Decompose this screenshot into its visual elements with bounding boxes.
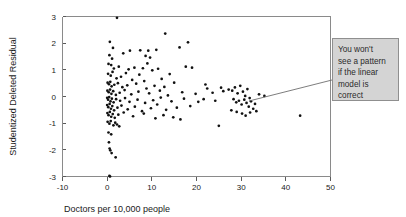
scatter-point <box>110 92 113 95</box>
scatter-point <box>111 57 114 60</box>
scatter-point <box>152 99 155 102</box>
scatter-point <box>117 65 120 68</box>
scatter-point <box>115 94 118 97</box>
scatter-point <box>109 40 112 43</box>
scatter-point <box>108 96 111 99</box>
scatter-point <box>146 62 149 65</box>
scatter-point <box>112 124 115 127</box>
scatter-point <box>141 110 144 113</box>
scatter-point <box>111 71 114 74</box>
scatter-point <box>191 66 194 69</box>
y-tick-label: 2 <box>52 39 57 48</box>
scatter-point <box>138 73 141 76</box>
scatter-point <box>120 75 123 78</box>
scatter-point <box>122 111 125 114</box>
scatter-point <box>117 82 120 85</box>
scatter-point <box>246 88 249 91</box>
scatter-point <box>160 78 163 81</box>
scatter-point <box>232 98 235 101</box>
scatter-point <box>147 49 150 52</box>
scatter-point <box>110 107 113 110</box>
scatter-point <box>168 73 171 76</box>
x-tick-label: 50 <box>326 183 335 192</box>
scatter-point <box>107 131 110 134</box>
scatter-point <box>127 68 130 71</box>
scatter-point <box>242 90 245 93</box>
scatter-point <box>153 84 156 87</box>
scatter-point <box>110 133 113 136</box>
scatter-point <box>126 108 129 111</box>
x-tick-label: 0 <box>105 183 110 192</box>
scatter-point <box>126 84 129 87</box>
scatter-point <box>124 97 127 100</box>
scatterplot-figure: 3 2 1 0 -1 -2 -3 Studentized Deleted Res… <box>0 0 406 217</box>
scatter-point <box>108 122 111 125</box>
scatter-point <box>189 105 192 108</box>
scatter-point <box>245 102 248 105</box>
scatter-point <box>112 101 115 104</box>
scatter-point <box>170 100 173 103</box>
scatter-point <box>112 47 115 50</box>
scatter-point <box>111 113 114 116</box>
scatter-point <box>107 91 110 94</box>
scatter-point <box>136 98 139 101</box>
scatter-point <box>144 102 147 105</box>
x-axis-title: Doctors per 10,000 people <box>64 204 170 214</box>
y-axis-title: Studentized Deleted Residual <box>8 37 18 156</box>
scatter-point <box>172 116 175 119</box>
scatter-point <box>115 77 118 80</box>
scatter-point <box>107 106 110 109</box>
scatter-point <box>111 97 114 100</box>
scatter-point <box>110 152 113 155</box>
scatter-point <box>108 141 111 144</box>
scatter-point <box>109 74 112 77</box>
scatter-point <box>130 93 133 96</box>
scatter-point <box>149 56 152 59</box>
scatter-point <box>173 81 176 84</box>
x-tick-label: -10 <box>57 183 69 192</box>
scatter-point <box>131 79 134 82</box>
scatter-point <box>109 111 112 114</box>
scatter-point <box>128 100 131 103</box>
scatter-point <box>118 91 121 94</box>
scatter-point <box>238 99 241 102</box>
scatter-point <box>117 113 120 116</box>
scatter-point <box>110 85 113 88</box>
scatter-point <box>202 98 205 101</box>
scatter-point <box>159 96 162 99</box>
scatter-point <box>176 106 179 109</box>
scatter-point <box>113 116 116 119</box>
scatter-point <box>107 98 110 101</box>
scatter-point <box>248 97 251 100</box>
scatter-point <box>121 86 124 89</box>
scatter-point <box>179 118 182 121</box>
scatter-point <box>204 83 207 86</box>
scatter-point <box>110 115 113 118</box>
scatter-point <box>243 98 246 101</box>
scatter-point <box>234 86 237 89</box>
x-tick-label: 30 <box>237 183 246 192</box>
scatter-point <box>109 88 112 91</box>
scatter-point <box>109 149 112 152</box>
scatter-point <box>145 87 148 90</box>
scatter-point <box>178 46 181 49</box>
scatter-point <box>157 67 160 70</box>
scatter-point <box>122 52 125 55</box>
scatter-point <box>125 72 128 75</box>
scatter-point <box>120 104 123 107</box>
scatter-point <box>247 105 250 108</box>
scatter-point <box>115 98 118 101</box>
scatter-point <box>107 114 110 117</box>
scatter-point <box>113 109 116 112</box>
scatter-point <box>112 90 115 93</box>
scatter-point <box>165 108 168 111</box>
scatter-point <box>108 103 111 106</box>
scatter-point <box>217 124 220 127</box>
scatter-point <box>167 94 170 97</box>
scatter-point <box>116 106 119 109</box>
scatter-point <box>162 114 165 117</box>
scatter-point <box>135 82 138 85</box>
scatter-point <box>133 66 136 69</box>
x-tick-label: 10 <box>147 183 156 192</box>
y-tick-label: 0 <box>52 93 57 102</box>
